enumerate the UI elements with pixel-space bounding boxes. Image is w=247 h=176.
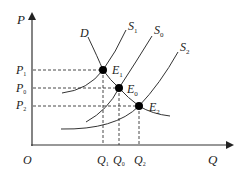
price-label-p0: P0	[15, 81, 26, 95]
equilibrium-point-e1	[99, 66, 107, 74]
supply-curve-s1	[62, 30, 126, 93]
quantity-label-q2: Q2	[134, 153, 146, 167]
equilibrium-label-e0: E0	[126, 82, 138, 98]
origin-label: O	[23, 153, 32, 167]
demand-label: D	[79, 26, 89, 40]
price-label-p2: P2	[15, 98, 26, 112]
supply-label-s0: S0	[154, 23, 164, 39]
quantity-label-q1: Q1	[97, 153, 109, 167]
y-axis-label: P	[16, 12, 25, 27]
equilibrium-label-e1: E1	[111, 63, 123, 79]
demand-curve	[88, 37, 170, 116]
quantity-label-q0: Q0	[113, 153, 125, 167]
supply-demand-diagram: P Q O D S1 S0 S2 E1 E0 E2 P1 P0 P2 Q1 Q0…	[0, 0, 247, 176]
price-label-p1: P1	[15, 63, 26, 77]
equilibrium-point-e2	[135, 102, 143, 110]
equilibrium-label-e2: E2	[148, 100, 160, 116]
x-axis-label: Q	[208, 152, 218, 167]
supply-label-s2: S2	[180, 40, 190, 56]
equilibrium-point-e0	[115, 84, 123, 92]
supply-label-s1: S1	[128, 19, 138, 35]
